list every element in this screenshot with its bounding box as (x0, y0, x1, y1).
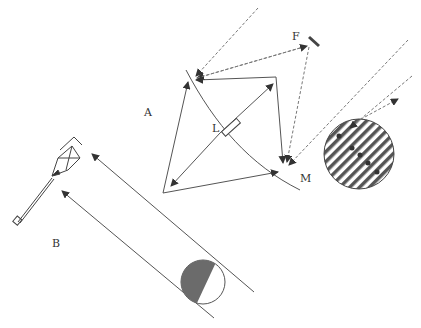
dashed-f-down (287, 47, 309, 162)
label-m: M (300, 172, 311, 185)
label-f: F (292, 30, 300, 43)
dashed-return-out (352, 99, 398, 124)
label-b: B (52, 237, 60, 250)
label-a: A (144, 106, 152, 119)
arrow-diag-down (171, 133, 220, 186)
detector-f (309, 37, 319, 46)
arrow-bottom-right (163, 172, 278, 193)
moon-shadow (150, 240, 218, 318)
arrow-right-down (276, 77, 283, 163)
label-l: L (212, 122, 219, 135)
lens-l (222, 118, 241, 136)
arrow-left-up (163, 82, 188, 193)
telescope-device (13, 137, 82, 225)
setup-b (13, 137, 254, 318)
mirror-m-curve (186, 70, 300, 190)
hatched-target (324, 76, 412, 189)
dashed-incoming-1 (196, 8, 258, 76)
diagram-canvas (0, 0, 421, 328)
beam-upper (92, 154, 254, 292)
arrow-top-left (196, 77, 276, 80)
dashed-mirror-to-f (197, 46, 307, 78)
